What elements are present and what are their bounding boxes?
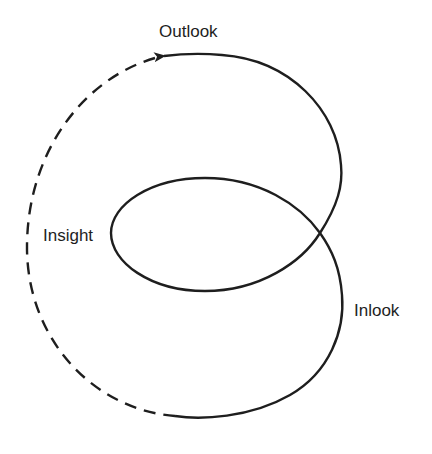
inlook-label: Inlook [354,302,399,319]
solid-loop-path [111,54,342,418]
insight-label: Insight [43,227,93,244]
outlook-label: Outlook [159,23,218,40]
